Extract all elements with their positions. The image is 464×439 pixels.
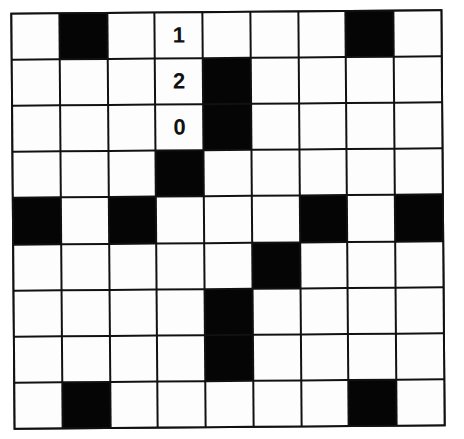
empty-cell[interactable]: [61, 152, 107, 196]
empty-cell[interactable]: [61, 60, 107, 104]
filled-cell[interactable]: 0: [156, 105, 202, 149]
empty-cell[interactable]: [13, 60, 59, 104]
empty-cell[interactable]: [348, 104, 394, 148]
filled-cell[interactable]: 2: [156, 59, 202, 103]
empty-cell[interactable]: [159, 382, 205, 426]
empty-cell[interactable]: [349, 242, 395, 286]
empty-cell[interactable]: [14, 245, 60, 289]
empty-cell[interactable]: [252, 59, 298, 103]
empty-cell[interactable]: [253, 289, 299, 333]
empty-cell[interactable]: [63, 337, 109, 381]
empty-cell[interactable]: [396, 150, 442, 194]
empty-cell[interactable]: [299, 12, 345, 56]
empty-cell[interactable]: [252, 151, 298, 195]
empty-cell[interactable]: [62, 244, 108, 288]
black-cell: [206, 289, 252, 333]
empty-cell[interactable]: [252, 105, 298, 149]
empty-cell[interactable]: [251, 12, 297, 56]
empty-cell[interactable]: [110, 244, 156, 288]
black-cell: [157, 152, 203, 196]
empty-cell[interactable]: [110, 336, 156, 380]
empty-cell[interactable]: [158, 244, 204, 288]
empty-cell[interactable]: [397, 288, 443, 332]
black-cell: [350, 381, 396, 425]
empty-cell[interactable]: [396, 242, 442, 286]
empty-cell[interactable]: [61, 106, 107, 150]
empty-cell[interactable]: [254, 335, 300, 379]
empty-cell[interactable]: [397, 334, 443, 378]
empty-cell[interactable]: [158, 290, 204, 334]
empty-cell[interactable]: [205, 243, 251, 287]
empty-cell[interactable]: [203, 13, 249, 57]
black-cell: [300, 197, 346, 241]
empty-cell[interactable]: [109, 152, 155, 196]
black-cell: [253, 243, 299, 287]
black-cell: [206, 336, 252, 380]
empty-cell[interactable]: [15, 291, 61, 335]
empty-cell[interactable]: [206, 382, 252, 426]
black-cell: [109, 198, 155, 242]
empty-cell[interactable]: [395, 104, 441, 148]
black-cell: [60, 14, 106, 58]
empty-cell[interactable]: [302, 381, 348, 425]
empty-cell[interactable]: [348, 196, 394, 240]
empty-cell[interactable]: [12, 14, 58, 58]
empty-cell[interactable]: [349, 334, 395, 378]
empty-cell[interactable]: [15, 337, 61, 381]
empty-cell[interactable]: [395, 11, 441, 55]
empty-cell[interactable]: [349, 288, 395, 332]
empty-cell[interactable]: [62, 291, 108, 335]
black-cell: [396, 196, 442, 240]
empty-cell[interactable]: [157, 198, 203, 242]
empty-cell[interactable]: [108, 14, 154, 58]
empty-cell[interactable]: [253, 197, 299, 241]
empty-cell[interactable]: [158, 336, 204, 380]
empty-cell[interactable]: [109, 106, 155, 150]
empty-cell[interactable]: [300, 104, 346, 148]
empty-cell[interactable]: [62, 198, 108, 242]
empty-cell[interactable]: [301, 243, 347, 287]
empty-cell[interactable]: [254, 381, 300, 425]
black-cell: [204, 105, 250, 149]
crossword-grid: 120: [10, 9, 445, 429]
empty-cell[interactable]: [13, 153, 59, 197]
filled-cell[interactable]: 1: [156, 13, 202, 57]
black-cell: [347, 12, 393, 56]
empty-cell[interactable]: [347, 58, 393, 102]
empty-cell[interactable]: [205, 151, 251, 195]
black-cell: [14, 199, 60, 243]
empty-cell[interactable]: [205, 197, 251, 241]
black-cell: [204, 59, 250, 103]
empty-cell[interactable]: [110, 290, 156, 334]
empty-cell[interactable]: [299, 58, 345, 102]
empty-cell[interactable]: [300, 150, 346, 194]
black-cell: [63, 383, 109, 427]
empty-cell[interactable]: [397, 380, 443, 424]
empty-cell[interactable]: [395, 57, 441, 101]
empty-cell[interactable]: [301, 289, 347, 333]
empty-cell[interactable]: [111, 382, 157, 426]
empty-cell[interactable]: [15, 383, 61, 427]
empty-cell[interactable]: [13, 107, 59, 151]
empty-cell[interactable]: [302, 335, 348, 379]
empty-cell[interactable]: [348, 150, 394, 194]
empty-cell[interactable]: [108, 60, 154, 104]
